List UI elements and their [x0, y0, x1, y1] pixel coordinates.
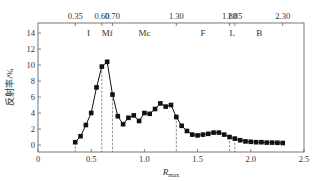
- data-point-marker: [227, 135, 232, 140]
- data-point-marker: [147, 112, 152, 117]
- data-point-marker: [259, 140, 264, 145]
- data-point-marker: [94, 85, 99, 90]
- y-tick-label: 10: [27, 60, 36, 70]
- data-point-marker: [185, 129, 190, 134]
- data-point-marker: [238, 138, 243, 143]
- data-point-marker: [153, 107, 158, 112]
- y-tick-label: 8: [31, 76, 35, 86]
- data-point-marker: [195, 133, 200, 138]
- data-point-marker: [174, 115, 179, 120]
- top-boundary-ticks: 0.350.600.701.301.801.852.30: [68, 11, 290, 26]
- region-label: B: [256, 28, 262, 38]
- data-point-marker: [78, 134, 83, 139]
- top-tick-label: 0.70: [105, 11, 120, 21]
- data-series: [73, 60, 285, 146]
- y-tick-label: 2: [31, 124, 35, 134]
- data-point-marker: [179, 124, 184, 129]
- y-tick-label: 14: [27, 28, 36, 38]
- data-point-marker: [110, 92, 115, 97]
- y-axis-title: 反射率/%: [4, 68, 15, 106]
- x-tick-label: 2.0: [245, 154, 256, 164]
- x-axis-title-sub: max: [168, 171, 180, 178]
- series-line: [75, 62, 283, 143]
- region-label: Mc: [138, 28, 150, 38]
- data-point-marker: [206, 132, 211, 137]
- data-point-marker: [222, 132, 227, 137]
- x-tick-label: 1.0: [139, 154, 150, 164]
- region-label: L: [229, 28, 235, 38]
- data-point-marker: [233, 136, 238, 141]
- y-axis: 02468101214: [27, 28, 42, 150]
- data-point-marker: [169, 103, 174, 108]
- x-axis-title: Rmax: [162, 167, 180, 178]
- data-point-marker: [73, 140, 78, 145]
- y-tick-label: 12: [27, 44, 36, 54]
- y-tick-label: 0: [31, 140, 35, 150]
- y-tick-label: 6: [31, 92, 35, 102]
- region-label: I: [87, 28, 90, 38]
- data-point-marker: [280, 141, 285, 146]
- data-point-marker: [142, 111, 147, 116]
- data-point-marker: [100, 64, 105, 69]
- data-point-marker: [121, 122, 126, 127]
- top-tick-label: 2.30: [275, 11, 290, 21]
- top-tick-label: 1.85: [227, 11, 242, 21]
- reflectance-chart: 0.350.600.701.301.801.852.30 IMfMcFLB 02…: [0, 0, 318, 181]
- x-tick-label: 0: [36, 154, 40, 164]
- data-point-marker: [137, 119, 142, 124]
- data-point-marker: [211, 130, 216, 135]
- top-tick-label: 0.35: [68, 11, 83, 21]
- data-point-marker: [270, 140, 275, 145]
- data-point-marker: [163, 104, 168, 109]
- x-tick-label: 1.5: [192, 154, 203, 164]
- data-point-marker: [217, 130, 222, 135]
- data-point-marker: [254, 140, 259, 145]
- x-axis: 00.51.01.52.02.5: [36, 149, 309, 164]
- data-point-marker: [243, 139, 248, 144]
- region-label: Mf: [102, 28, 113, 38]
- region-labels: IMfMcFLB: [87, 28, 262, 38]
- data-point-marker: [116, 114, 121, 119]
- x-tick-label: 2.5: [299, 154, 310, 164]
- region-label: F: [200, 28, 205, 38]
- plot-frame: [38, 23, 304, 152]
- x-tick-label: 0.5: [86, 154, 97, 164]
- data-point-marker: [201, 132, 206, 137]
- data-point-marker: [131, 113, 136, 118]
- data-point-marker: [84, 123, 89, 128]
- data-point-marker: [105, 60, 110, 65]
- y-tick-label: 4: [31, 108, 36, 118]
- data-point-marker: [275, 140, 280, 145]
- data-point-marker: [190, 132, 195, 137]
- data-point-marker: [158, 101, 163, 106]
- data-point-marker: [264, 140, 269, 145]
- data-point-marker: [89, 111, 94, 116]
- data-point-marker: [249, 140, 254, 145]
- top-tick-label: 1.30: [169, 11, 184, 21]
- data-point-marker: [126, 116, 131, 121]
